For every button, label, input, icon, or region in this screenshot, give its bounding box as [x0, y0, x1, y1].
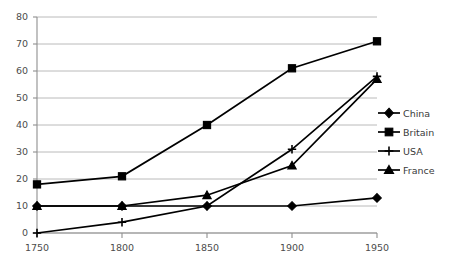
cross-icon [385, 147, 394, 156]
datapoint-britain-1750 [33, 181, 40, 188]
x-label-1800: 1800 [110, 242, 134, 253]
y-label-0: 0 [22, 227, 28, 238]
series-france [33, 75, 381, 210]
y-label-70: 70 [16, 38, 28, 49]
line-chart: 80 70 60 50 40 30 20 10 0 1750 1800 1850… [0, 0, 454, 272]
y-label-20: 20 [16, 173, 28, 184]
y-label-50: 50 [16, 92, 28, 103]
legend-item-britain[interactable]: Britain [378, 127, 434, 138]
x-label-1750: 1750 [25, 242, 49, 253]
x-tick-marks [37, 233, 377, 238]
x-label-1900: 1900 [280, 242, 304, 253]
y-label-80: 80 [16, 11, 28, 22]
diamond-icon [385, 108, 394, 118]
series-britain [33, 38, 380, 188]
datapoint-usa-1800 [118, 218, 126, 226]
datapoint-britain-1850 [203, 121, 210, 128]
x-label-1850: 1850 [195, 242, 219, 253]
y-label-10: 10 [16, 200, 28, 211]
x-axis-labels: 1750 1800 1850 1900 1950 [25, 242, 389, 253]
series-layer [33, 38, 382, 238]
legend-label-france: France [403, 165, 435, 176]
datapoint-britain-1950 [373, 38, 380, 45]
datapoint-china-1900 [288, 202, 297, 211]
legend-item-usa[interactable]: USA [378, 146, 423, 157]
y-label-40: 40 [16, 119, 28, 130]
x-label-1950: 1950 [365, 242, 389, 253]
legend-item-france[interactable]: France [378, 165, 435, 176]
chart-page: 80 70 60 50 40 30 20 10 0 1750 1800 1850… [0, 0, 454, 272]
y-axis-labels: 80 70 60 50 40 30 20 10 0 [16, 11, 28, 238]
legend-label-britain: Britain [403, 127, 434, 138]
y-label-30: 30 [16, 146, 28, 157]
series-usa [33, 72, 381, 237]
datapoint-britain-1900 [288, 65, 295, 72]
chart-legend: China Britain USA France [378, 108, 435, 176]
series-line-britain [37, 41, 377, 184]
datapoint-china-1950 [373, 194, 382, 203]
square-icon [385, 128, 393, 136]
legend-label-usa: USA [403, 146, 423, 157]
y-label-60: 60 [16, 65, 28, 76]
datapoint-usa-1750 [33, 229, 41, 237]
datapoint-britain-1800 [118, 173, 125, 180]
legend-item-china[interactable]: China [378, 108, 430, 119]
y-tick-marks [33, 17, 37, 233]
legend-label-china: China [403, 108, 430, 119]
